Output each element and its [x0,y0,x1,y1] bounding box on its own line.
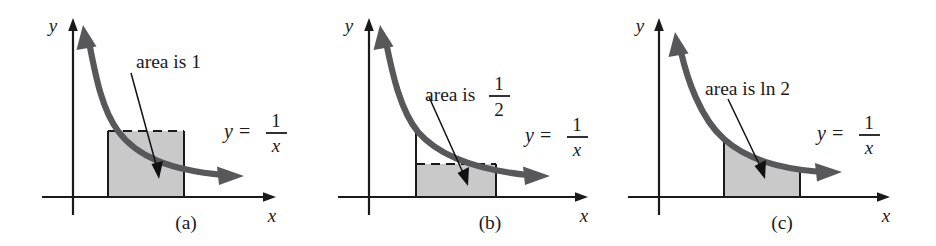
figure-container: y x area is 1 y = 1 x (a) [0,0,936,246]
equation-denominator-b: x [572,139,582,160]
y-axis-label-b: y [343,15,354,36]
equation-a: y = 1 x [222,110,287,156]
hyperbola-curve-b [386,42,528,175]
equation-operator-c: = [832,122,843,144]
area-note-group-b: area is 1 2 [425,73,510,120]
equation-operator-a: = [239,120,250,142]
curve-arrowhead-up-c [669,32,689,57]
x-axis-label-b: x [579,205,589,226]
curve-arrowhead-up-b [374,25,394,50]
equation-operator-b: = [540,124,551,146]
equation-numerator-c: 1 [864,112,874,133]
y-axis-label-a: y [47,15,58,36]
equation-denominator-c: x [864,137,874,158]
equation-b: y = 1 x [523,114,588,160]
equation-lhs-b: y [523,124,534,147]
y-axis-label-c: y [634,15,645,36]
curve-arrowhead-right-a [217,167,244,186]
y-axis-arrowhead-c [654,18,664,31]
curve-arrowhead-up-a [77,25,97,50]
y-axis-arrowhead-b [364,18,374,31]
panel-a: y x area is 1 y = 1 x (a) [0,0,312,246]
panel-caption-a: (a) [175,212,197,234]
equation-numerator-b: 1 [572,114,582,135]
x-axis-arrowhead-b [575,192,588,202]
area-note-denominator-b: 2 [494,99,504,120]
y-axis-arrowhead-a [68,18,78,31]
curve-arrowhead-right-c [815,163,842,182]
hyperbola-curve-c [681,52,821,172]
panel-caption-b: (b) [479,212,502,234]
x-axis-arrowhead-a [263,192,276,202]
panel-c: y x area is ln 2 y = 1 x (c) [624,0,936,246]
equation-lhs-c: y [815,122,826,145]
x-axis-label-c: x [881,205,891,226]
area-note-a: area is 1 [136,51,201,72]
curve-arrowhead-right-b [523,167,550,186]
area-note-c: area is ln 2 [705,78,790,99]
equation-numerator-a: 1 [271,110,281,131]
equation-denominator-a: x [271,135,281,156]
panel-caption-c: (c) [771,212,793,234]
equation-lhs-a: y [222,120,233,143]
area-note-numerator-b: 1 [494,73,504,94]
x-axis-label-a: x [267,205,277,226]
area-note-b: area is [425,84,475,105]
x-axis-arrowhead-c [877,192,890,202]
panel-b: y x area is 1 2 y = 1 x (b) [312,0,624,246]
equation-c: y = 1 x [815,112,880,158]
